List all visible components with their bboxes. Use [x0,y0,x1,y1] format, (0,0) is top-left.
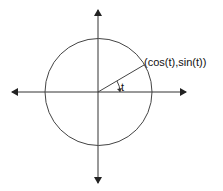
point-label: (cos(t),sin(t)) [144,56,206,68]
unit-circle-diagram: t (cos(t),sin(t)) [0,0,223,191]
angle-label: t [121,81,124,93]
